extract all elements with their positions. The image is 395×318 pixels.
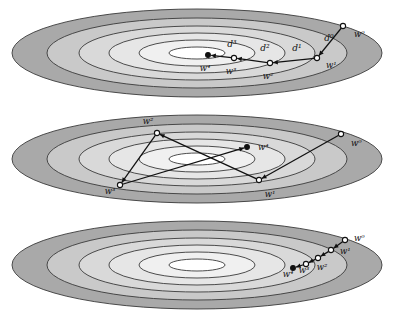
step-label-d0: d⁰ [324,33,334,43]
iterate-label-w4: w⁴ [283,269,294,279]
iterate-marker-w4 [206,53,211,58]
contour-ring-5 [169,153,225,165]
iterate-marker-w1 [314,55,319,60]
panel-mid-canvas: w⁰w¹w²w³w⁴ [0,106,395,212]
iterate-marker-w2 [315,255,320,260]
iterate-label-w1: w¹ [340,246,351,256]
iterate-label-w2: w² [263,71,274,81]
iterate-marker-w1 [328,247,333,252]
iterate-marker-w2 [267,60,272,65]
iterate-label-w0: w⁰ [354,233,365,243]
iterate-label-w4: w⁴ [200,63,211,73]
panel-top-canvas: w⁰w¹w²w³w⁴d⁰d¹d²d³ [0,0,395,106]
iterate-marker-w1 [256,177,261,182]
iterate-label-w0: w⁰ [354,29,365,39]
panel-top: w⁰w¹w²w³w⁴d⁰d¹d²d³ [0,0,395,106]
iterate-marker-w3 [231,55,236,60]
step-label-d1: d¹ [292,43,301,53]
iterate-marker-w3 [117,182,122,187]
iterate-label-w2: w² [143,116,154,126]
iterate-label-w3: w³ [226,66,237,76]
iterate-label-w3: w³ [105,186,116,196]
iterate-label-w1: w¹ [265,189,276,199]
panel-mid-contours [12,115,382,203]
panel-bot-canvas: w⁰w¹w²w³w⁴ [0,212,395,318]
iterate-marker-w0 [342,237,347,242]
panel-bot: w⁰w¹w²w³w⁴ [0,212,395,318]
step-label-d3: d³ [227,39,237,49]
iterate-marker-w2 [154,130,159,135]
step-label-d2: d² [260,43,270,53]
figure-root: w⁰w¹w²w³w⁴d⁰d¹d²d³ w⁰w¹w²w³w⁴ w⁰w¹w²w³w⁴ [0,0,395,318]
panel-top-contours [12,9,382,97]
iterate-label-w1: w¹ [326,60,337,70]
iterate-label-w3: w³ [299,265,310,275]
iterate-label-w2: w² [317,262,328,272]
contour-ring-5 [169,259,225,271]
iterate-marker-w4 [245,145,250,150]
iterate-label-w4: w⁴ [258,142,269,152]
iterate-label-w0: w⁰ [351,138,362,148]
iterate-marker-w0 [338,131,343,136]
panel-mid: w⁰w¹w²w³w⁴ [0,106,395,212]
iterate-marker-w0 [340,23,345,28]
contour-ring-5 [169,47,225,59]
